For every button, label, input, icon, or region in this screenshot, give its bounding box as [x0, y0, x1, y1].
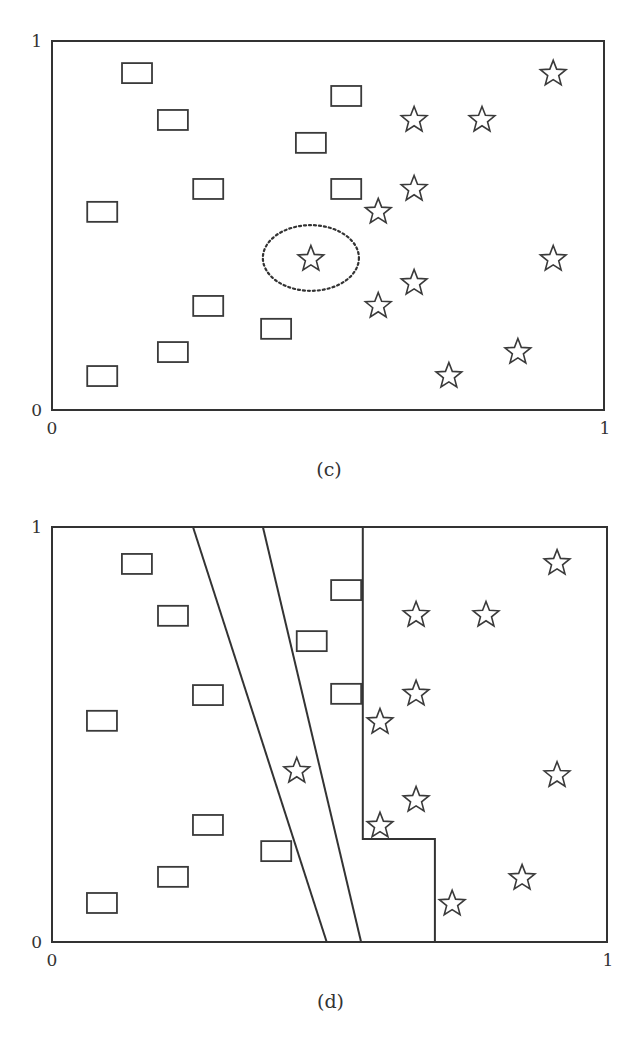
star-marker [436, 363, 462, 387]
star-marker [367, 709, 393, 733]
x-max-tick-label: 1 [603, 950, 614, 970]
star-marker [401, 175, 427, 199]
step-boundary [363, 527, 435, 942]
star-marker [401, 106, 427, 130]
rectangle-marker [158, 606, 188, 626]
rectangle-marker [87, 893, 117, 913]
plot-d: 1001(d) [31, 517, 613, 1012]
star-marker [505, 339, 531, 363]
star-marker [473, 601, 499, 625]
y-min-tick-label: 0 [31, 400, 42, 420]
y-max-tick-label: 1 [31, 31, 42, 51]
plot-caption: (c) [316, 458, 341, 480]
rectangle-marker [158, 110, 188, 130]
star-marker [544, 550, 570, 574]
star-marker [544, 762, 570, 786]
y-min-tick-label: 0 [31, 932, 42, 952]
rectangle-marker [261, 841, 291, 861]
rectangle-marker [331, 580, 361, 600]
rectangle-marker [122, 554, 152, 574]
rectangle-marker [87, 711, 117, 731]
rectangle-marker [193, 296, 223, 316]
rectangle-marker [158, 867, 188, 887]
x-min-tick-label: 0 [47, 418, 58, 438]
rectangle-marker [193, 815, 223, 835]
star-marker [403, 787, 429, 811]
rectangle-marker [122, 63, 152, 83]
rectangle-marker [193, 685, 223, 705]
x-max-tick-label: 1 [600, 418, 611, 438]
rectangle-marker [193, 179, 223, 199]
plot-c: 1001(c) [31, 31, 610, 480]
rectangle-marker [87, 202, 117, 222]
star-marker [509, 865, 535, 889]
star-marker [365, 198, 391, 222]
rectangle-marker [261, 319, 291, 339]
x-min-tick-label: 0 [47, 950, 58, 970]
star-marker [540, 246, 566, 270]
figure-canvas: 1001(c) 1001(d) [0, 0, 643, 1044]
star-marker [401, 270, 427, 294]
rectangle-marker [158, 342, 188, 362]
rectangle-marker [297, 631, 327, 651]
star-marker [284, 758, 310, 782]
diagonal-boundary-left [193, 527, 327, 942]
star-marker [365, 292, 391, 316]
star-marker [298, 246, 324, 270]
y-max-tick-label: 1 [31, 517, 42, 537]
rectangle-marker [331, 179, 361, 199]
star-marker [469, 106, 495, 130]
rectangle-marker [331, 86, 361, 106]
star-marker [403, 680, 429, 704]
rectangle-marker [87, 366, 117, 386]
star-marker [540, 60, 566, 84]
star-marker [367, 812, 393, 836]
star-marker [439, 890, 465, 914]
rectangle-marker [296, 133, 326, 153]
rectangle-marker [331, 684, 361, 704]
plot-caption: (d) [317, 990, 344, 1012]
star-marker [403, 601, 429, 625]
